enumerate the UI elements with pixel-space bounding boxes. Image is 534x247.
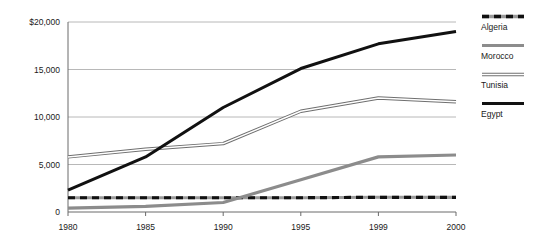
y-tick-label: 15,000 <box>34 65 60 75</box>
series-egypt <box>68 32 456 191</box>
gray-line-swatch <box>481 41 525 50</box>
y-tick-label: 10,000 <box>34 112 60 122</box>
legend-entry-algeria[interactable]: Algeria <box>481 12 533 33</box>
x-tick-marks <box>68 212 456 216</box>
y-tick-label: 5,000 <box>39 160 61 170</box>
legend-entry-egypt[interactable]: Egypt <box>481 99 533 120</box>
x-tick-labels: 198019851990199519992000 <box>59 222 466 232</box>
series-tunisia <box>68 98 456 157</box>
x-tick-label: 1990 <box>214 222 233 232</box>
gridlines <box>68 22 456 165</box>
y-tick-labels: 05,00010,00015,000$20,000 <box>29 17 60 217</box>
legend-label: Algeria <box>481 22 533 33</box>
dashed-line-swatch <box>481 12 525 21</box>
black-line-swatch <box>481 99 525 108</box>
series-lines <box>68 32 456 209</box>
x-tick-label: 1995 <box>291 222 310 232</box>
legend-label: Egypt <box>481 109 533 120</box>
line-chart: 05,00010,00015,000$20,000 19801985199019… <box>0 0 534 247</box>
y-tick-label: 0 <box>55 207 60 217</box>
legend-entry-tunisia[interactable]: Tunisia <box>481 70 533 91</box>
y-tick-label: $20,000 <box>29 17 60 27</box>
legend-label: Morocco <box>481 51 533 62</box>
x-tick-label: 1980 <box>59 222 78 232</box>
x-tick-label: 1999 <box>369 222 388 232</box>
plot-area: 05,00010,00015,000$20,000 19801985199019… <box>0 0 470 247</box>
x-tick-label: 1985 <box>136 222 155 232</box>
legend-label: Tunisia <box>481 80 533 91</box>
x-tick-label: 2000 <box>447 222 466 232</box>
chart-svg: 05,00010,00015,000$20,000 19801985199019… <box>0 0 470 247</box>
legend-entry-morocco[interactable]: Morocco <box>481 41 533 62</box>
outline-line-swatch <box>481 70 525 79</box>
chart-legend: AlgeriaMoroccoTunisiaEgypt <box>481 12 533 128</box>
series-morocco <box>68 155 456 208</box>
